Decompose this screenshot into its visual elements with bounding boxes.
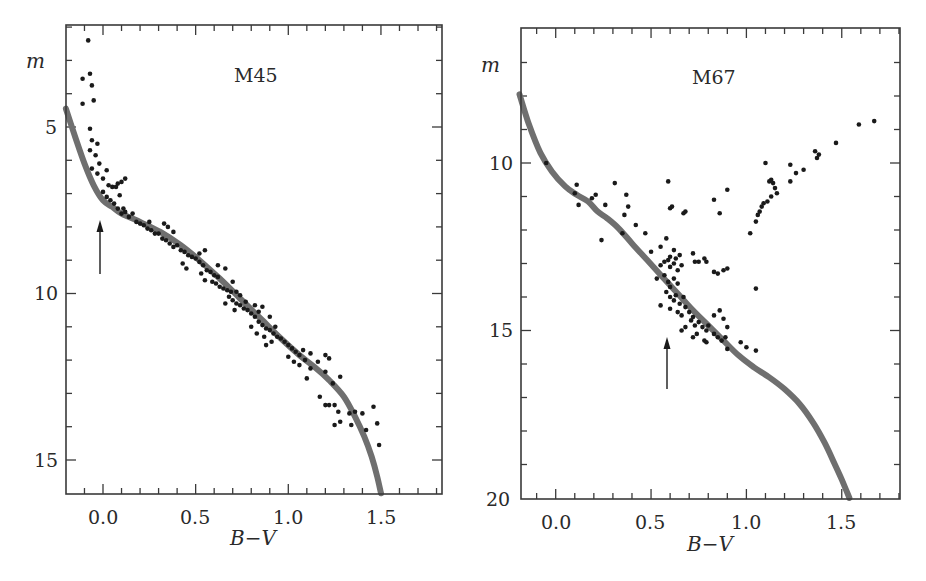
star-point: [672, 298, 677, 303]
star-point: [216, 263, 221, 268]
m45-y-tick-1: 10: [34, 282, 58, 304]
star-point: [327, 403, 332, 408]
star-point: [182, 250, 187, 255]
star-point: [754, 286, 759, 291]
star-point: [360, 411, 365, 416]
star-point: [704, 328, 709, 333]
star-point: [679, 313, 684, 318]
star-point: [147, 220, 152, 225]
m45-plot-frame: [66, 25, 442, 494]
star-point: [264, 343, 269, 348]
star-point: [377, 443, 382, 448]
m45-y-tick-2: 15: [34, 449, 58, 471]
star-point: [717, 211, 722, 216]
m45-x-axis-label: B−V: [229, 526, 278, 550]
star-point: [655, 276, 660, 281]
star-point: [301, 348, 306, 353]
star-point: [331, 381, 336, 386]
m67-y-tick-0: 10: [489, 152, 513, 174]
star-point: [116, 206, 121, 211]
star-point: [230, 280, 235, 285]
star-point: [658, 263, 663, 268]
star-point: [254, 331, 259, 336]
star-point: [754, 348, 759, 353]
star-point: [201, 263, 206, 268]
star-point: [180, 261, 185, 266]
star-point: [666, 179, 671, 184]
star-point: [744, 345, 749, 350]
star-point: [700, 325, 705, 330]
star-point: [316, 360, 321, 365]
star-point: [674, 256, 679, 261]
m67-x-tick-3: 1.5: [826, 511, 856, 533]
star-point: [834, 141, 839, 146]
star-point: [318, 394, 323, 399]
star-point: [112, 201, 117, 206]
star-point: [323, 370, 328, 375]
star-point: [80, 76, 85, 81]
star-point: [166, 225, 171, 230]
star-point: [771, 181, 776, 186]
star-point: [364, 428, 369, 433]
star-point: [91, 98, 96, 103]
m67-x-tick-0: 0.0: [541, 511, 571, 533]
m45-x-tick-2: 1.0: [273, 506, 303, 528]
star-point: [271, 331, 276, 336]
star-point: [230, 298, 235, 303]
star-point: [332, 423, 337, 428]
star-point: [624, 193, 629, 198]
star-point: [101, 176, 106, 181]
zams-curve-line: [66, 109, 381, 494]
star-point: [260, 323, 265, 328]
star-point: [691, 335, 696, 340]
star-point: [93, 153, 98, 158]
m67-x-axis-label: B−V: [686, 532, 735, 556]
star-point: [249, 311, 254, 316]
star-point: [691, 251, 696, 256]
star-point: [323, 353, 328, 358]
star-point: [712, 332, 717, 337]
star-point: [88, 71, 93, 76]
star-point: [167, 241, 172, 246]
m67-x-tick-labels: 0.0 0.5 1.0 1.5: [541, 511, 856, 533]
star-point: [725, 325, 730, 330]
star-point: [249, 325, 254, 330]
star-point: [738, 340, 743, 345]
star-point: [184, 266, 189, 271]
star-point: [234, 290, 239, 295]
star-point: [197, 251, 202, 256]
star-point: [649, 250, 654, 255]
star-point: [723, 335, 728, 340]
star-point: [666, 280, 671, 285]
star-point: [223, 301, 228, 306]
star-point: [253, 315, 258, 320]
star-point: [293, 350, 298, 355]
star-point: [171, 230, 176, 235]
star-point: [677, 301, 682, 306]
m67-y-tick-2: 20: [486, 488, 510, 510]
star-point: [123, 210, 128, 215]
m45-panel-title: M45: [234, 64, 278, 86]
star-point: [704, 340, 709, 345]
m67-x-tick-2: 1.0: [731, 511, 761, 533]
m45-y-tick-0: 5: [45, 116, 57, 138]
star-point: [672, 248, 677, 253]
star-point: [719, 338, 724, 343]
m67-panel-title: M67: [692, 66, 736, 88]
star-point: [765, 199, 770, 204]
star-point: [695, 332, 700, 337]
star-point: [666, 258, 671, 263]
star-point: [683, 209, 688, 214]
star-point: [164, 238, 169, 243]
star-point: [286, 355, 291, 360]
star-point: [672, 276, 677, 281]
star-point: [327, 356, 332, 361]
star-point: [872, 119, 877, 124]
star-point: [268, 328, 273, 333]
star-point: [104, 168, 109, 173]
star-point: [90, 83, 95, 88]
star-point: [679, 328, 684, 333]
star-point: [193, 256, 198, 261]
star-point: [683, 325, 688, 330]
star-point: [725, 347, 730, 352]
